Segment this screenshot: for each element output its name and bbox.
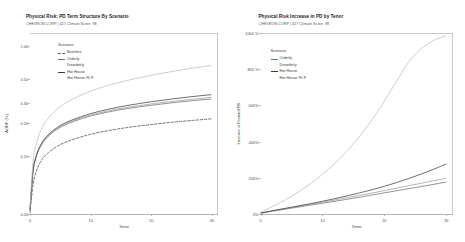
y-axis-label-right: Increase in Forward PD [236, 33, 246, 214]
legend-right: Scenario OrderlyDisorderlyHot HouseHot H… [271, 48, 307, 81]
y-axis-tick-label: 0.30 [20, 101, 28, 106]
y-axis-tick-label: 0.20 [20, 120, 28, 125]
legend-swatch-hot-house [271, 69, 278, 73]
x-axis-tick-mark [212, 214, 213, 216]
x-axis-label-left: Tenor [30, 224, 218, 229]
y-axis-tick-label: 0.50 [20, 76, 28, 81]
legend-swatch-orderly [58, 57, 65, 61]
x-axis-tick-label: 0 [259, 218, 261, 223]
x-axis-tick-label: 0 [29, 218, 31, 223]
x-axis-tick-mark [261, 214, 262, 216]
page-title: Physical Risk: PD Term Structure By Scen… [26, 14, 129, 19]
y-axis-tick-label: 600% [249, 103, 259, 108]
y-axis-tick-label: 200% [249, 175, 259, 180]
panel-pd-increase: Physical Risk Increase in PD by Tenor CH… [233, 0, 465, 242]
x-axis-tick-mark [151, 214, 152, 216]
x-axis-label-right: Tenor [261, 224, 453, 229]
legend-swatch-hot-house-95-f [58, 76, 65, 80]
y-axis-tick-label: 0.10 [20, 154, 28, 159]
legend-swatch-disorderly [271, 63, 278, 67]
x-axis-tick-mark [384, 214, 385, 216]
x-axis-tick-mark [322, 214, 323, 216]
series-line-disorderly [30, 97, 211, 209]
x-axis-tick-label: 10 [88, 218, 92, 223]
x-axis-tick-mark [446, 214, 447, 216]
legend-swatch-hot-house-95-f [271, 76, 278, 80]
y-axis-tick-label: 0% [253, 212, 259, 217]
panel-subtitle: CHEVRON CORP | 427 Climate Score: 98 [26, 22, 97, 26]
x-axis-tick-label: 20 [382, 218, 386, 223]
x-axis-tick-label: 10 [320, 218, 324, 223]
x-axis-tick-label: 20 [149, 218, 153, 223]
dual-chart-figure: Physical Risk: PD Term Structure By Scen… [0, 0, 465, 242]
series-line-baseline [30, 119, 211, 213]
y-axis-tick-label: 400% [249, 139, 259, 144]
series-line-orderly [30, 99, 211, 209]
y-axis-tick-label: 1.00 [20, 43, 28, 48]
legend-swatch-orderly [271, 57, 278, 61]
legend-item[interactable]: Hot House 95 F [58, 75, 94, 81]
legend-swatch-disorderly [58, 63, 65, 67]
legend-items-right: OrderlyDisorderlyHot HouseHot House 95 F [271, 55, 307, 81]
legend-items-left: BaselineOrderlyDisorderlyHot HouseHot Ho… [58, 49, 94, 81]
x-axis-tick-mark [30, 214, 31, 216]
page-title-right: Physical Risk Increase in PD by Tenor [259, 14, 344, 19]
legend-swatch-hot-house [58, 70, 65, 74]
legend-item-label: Hot House 95 F [67, 75, 94, 81]
legend-swatch-baseline [58, 51, 65, 55]
series-line-hot-house [261, 164, 446, 213]
series-line-hot-house [30, 95, 211, 210]
panel-pd-term-structure: Physical Risk: PD Term Structure By Scen… [0, 0, 233, 242]
legend-item-label: Hot House 95 F [280, 75, 307, 81]
legend-item[interactable]: Hot House 95 F [271, 75, 307, 81]
y-axis-tick-label: 0.03 [20, 212, 28, 217]
x-axis-tick-label: 30 [444, 218, 448, 223]
series-line-hot-house-95-f [30, 66, 211, 209]
panel-subtitle-right: CHEVRON CORP | 427 Climate Score: 98 [259, 22, 330, 26]
legend-left: Scenario BaselineOrderlyDisorderlyHot Ho… [58, 42, 94, 81]
y-axis-tick-label: 1000 % [245, 31, 258, 36]
legend-title: Scenario [271, 48, 307, 54]
x-axis-tick-mark [91, 214, 92, 216]
x-axis-tick-label: 30 [210, 218, 214, 223]
y-axis-tick-label: 800 % [247, 67, 258, 72]
y-axis-label-left: AODF (%) [4, 33, 14, 214]
legend-title: Scenario [58, 42, 94, 48]
